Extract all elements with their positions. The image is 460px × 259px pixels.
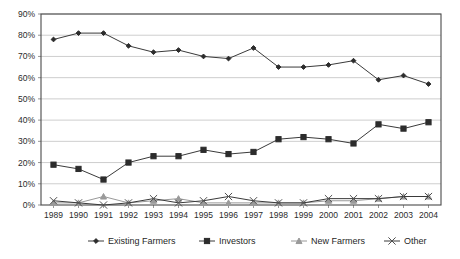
data-point [251, 149, 256, 154]
chart-background [0, 0, 460, 259]
data-point [51, 162, 56, 167]
x-axis-tick-label: 2001 [344, 210, 363, 220]
data-point [426, 120, 431, 125]
legend-label: Other [404, 236, 427, 246]
legend-label: Existing Farmers [108, 236, 176, 246]
x-axis-tick-label: 1995 [194, 210, 213, 220]
y-axis-tick-label: 0% [23, 200, 36, 210]
data-point [126, 160, 131, 165]
legend-label: Investors [219, 236, 256, 246]
y-axis-tick-label: 30% [18, 136, 35, 146]
data-point [276, 137, 281, 142]
data-point [151, 154, 156, 159]
chart-canvas: 0%10%20%30%40%50%60%70%80%90% 1989199019… [0, 0, 460, 259]
line-chart: 0%10%20%30%40%50%60%70%80%90% 1989199019… [0, 0, 460, 259]
legend-label: New Farmers [311, 236, 366, 246]
y-axis-tick-label: 50% [18, 94, 35, 104]
x-axis-tick-label: 1991 [94, 210, 113, 220]
data-point [351, 141, 356, 146]
data-point [101, 177, 106, 182]
x-axis-tick-label: 2002 [369, 210, 388, 220]
y-axis-tick-label: 10% [18, 179, 35, 189]
x-axis-tick-label: 1990 [69, 210, 88, 220]
y-axis-tick-label: 40% [18, 115, 35, 125]
x-axis-tick-label: 1997 [244, 210, 263, 220]
y-axis-tick-label: 60% [18, 73, 35, 83]
data-point [326, 137, 331, 142]
data-point [176, 154, 181, 159]
x-axis-tick-label: 1994 [169, 210, 188, 220]
x-axis-tick-label: 1989 [44, 210, 63, 220]
data-point [376, 122, 381, 127]
x-axis-tick-label: 1996 [219, 210, 238, 220]
y-axis-tick-label: 70% [18, 51, 35, 61]
y-axis-tick-label: 20% [18, 158, 35, 168]
x-axis-tick-label: 2003 [394, 210, 413, 220]
data-point [401, 126, 406, 131]
x-axis-tick-label: 2000 [319, 210, 338, 220]
y-axis-tick-label: 80% [18, 30, 35, 40]
y-axis-tick-label: 90% [18, 9, 35, 19]
x-axis-tick-label: 1992 [119, 210, 138, 220]
x-axis-tick-label: 1993 [144, 210, 163, 220]
x-axis-tick-label: 1999 [294, 210, 313, 220]
x-axis-tick-label: 2004 [419, 210, 438, 220]
data-point [301, 134, 306, 139]
data-point [226, 151, 231, 156]
x-axis-tick-label: 1998 [269, 210, 288, 220]
data-point [201, 147, 206, 152]
legend-marker-square-icon [204, 238, 209, 243]
data-point [76, 166, 81, 171]
